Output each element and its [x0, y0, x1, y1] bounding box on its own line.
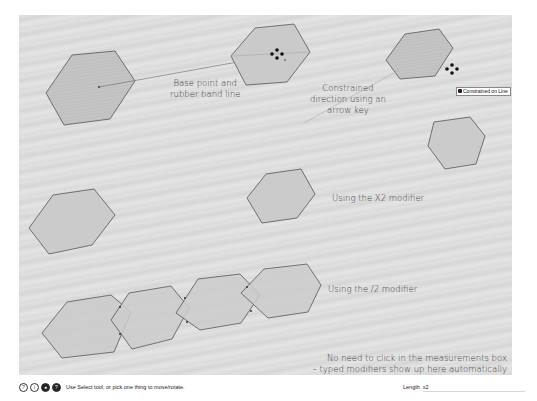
scene: [19, 15, 512, 375]
annotation-line: rubber band line: [170, 89, 241, 100]
hexagon-row-div2: [42, 264, 321, 358]
inference-icon: [458, 89, 462, 93]
tooltip-text: Constrained on Line: [463, 88, 508, 94]
annotation-line: direction using an: [310, 94, 386, 105]
hexagon-x2[interactable]: [247, 169, 315, 223]
instructor-icon[interactable]: ?: [52, 383, 61, 392]
measurements-box: Length x2: [403, 382, 525, 392]
measurements-label: Length: [403, 384, 420, 390]
annotation-measurements-note: No need to click in the measurements box…: [283, 353, 507, 375]
measurements-input[interactable]: x2: [423, 383, 525, 392]
help-icon[interactable]: ?: [19, 383, 28, 392]
hexagon-original[interactable]: [46, 51, 135, 125]
annotation-line: Base point and: [170, 78, 241, 89]
annotation-base-point: Base point and rubber band line: [170, 78, 241, 100]
annotation-line: No need to click in the measurements box: [283, 353, 507, 364]
annotation-line: arrow key: [310, 105, 386, 116]
user-icon[interactable]: ●: [41, 383, 50, 392]
hexagon[interactable]: [176, 274, 260, 330]
base-point: [98, 86, 100, 88]
hexagon[interactable]: [29, 189, 115, 254]
hexagon[interactable]: [111, 286, 189, 349]
hexagon[interactable]: [241, 264, 321, 318]
annotation-div2-modifier: Using the /2 modifier: [328, 284, 417, 295]
annotation-x2-modifier: Using the X2 modifier: [332, 193, 424, 204]
info-icon[interactable]: i: [30, 383, 39, 392]
hexagon[interactable]: [428, 117, 485, 169]
move-cursor-icon: [445, 63, 459, 75]
annotation-line: – typed modifiers show up here automatic…: [283, 364, 507, 375]
inference-tooltip: Constrained on Line: [456, 87, 511, 96]
status-message: Use Select tool, or pick one thing to mo…: [66, 384, 185, 390]
drawing-canvas[interactable]: Base point and rubber band line Constrai…: [19, 15, 512, 375]
annotation-line: Constrained: [310, 83, 386, 94]
annotation-constrained: Constrained direction using an arrow key: [310, 83, 386, 116]
